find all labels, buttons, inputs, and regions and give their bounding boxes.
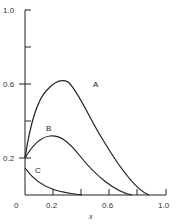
curve-b — [25, 136, 132, 195]
curve-label-b: B — [46, 124, 51, 133]
x-tick-label-0.6: 0.6 — [102, 201, 114, 210]
curve-label-a: A — [93, 80, 99, 89]
x-axis-title: x — [88, 212, 93, 221]
x-tick-label-0: 0 — [14, 201, 19, 210]
chart: 1.0 0.6 0.2 0 0.2 0.6 1.0 x A B C — [0, 0, 177, 224]
curve-label-c: C — [35, 166, 41, 175]
y-tick-label-1.0: 1.0 — [3, 6, 15, 15]
y-axis — [19, 10, 31, 195]
x-axis — [25, 189, 166, 195]
x-tick-label-0.2: 0.2 — [46, 201, 58, 210]
x-tick-label-1.0: 1.0 — [158, 201, 170, 210]
y-tick-label-0.2: 0.2 — [3, 154, 15, 163]
y-tick-label-0.6: 0.6 — [3, 80, 15, 89]
